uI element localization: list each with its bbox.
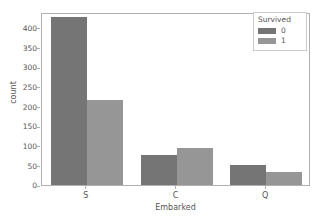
legend-swatch xyxy=(258,28,276,34)
legend-title: Survived xyxy=(258,16,302,24)
bar xyxy=(141,155,177,185)
y-axis-tick-mark xyxy=(37,107,40,108)
y-axis-tick-mark xyxy=(37,127,40,128)
x-axis-tick-mark xyxy=(175,186,176,189)
legend-swatch xyxy=(258,38,276,44)
bar xyxy=(177,148,213,185)
x-axis-tick-label: S xyxy=(83,192,88,200)
y-axis-tick-mark xyxy=(37,48,40,49)
legend-entries: 01 xyxy=(258,27,302,44)
y-axis-tick-mark xyxy=(37,28,40,29)
y-axis-tick-mark xyxy=(37,166,40,167)
x-axis-tick-mark xyxy=(265,186,266,189)
legend-item-label: 1 xyxy=(281,37,286,45)
x-axis-tick-mark xyxy=(85,186,86,189)
bar xyxy=(266,172,302,185)
bar xyxy=(51,17,87,185)
y-axis-tick-mark xyxy=(37,186,40,187)
y-axis-tick-mark xyxy=(37,146,40,147)
bar xyxy=(230,165,266,185)
legend: Survived 01 xyxy=(253,12,307,51)
y-axis-tick-mark xyxy=(37,87,40,88)
legend-item: 1 xyxy=(258,37,302,45)
x-axis-label: Embarked xyxy=(41,203,310,212)
legend-item-label: 0 xyxy=(281,27,286,35)
legend-item: 0 xyxy=(258,27,302,35)
x-axis-tick-label: Q xyxy=(262,192,268,200)
chart-figure: 050100150200250300350400 count SCQ Embar… xyxy=(0,0,324,222)
x-axis-tick-label: C xyxy=(173,192,179,200)
y-axis-label: count xyxy=(9,63,18,123)
bar xyxy=(87,100,123,185)
y-axis-tick-mark xyxy=(37,68,40,69)
y-axis: 050100150200250300350400 xyxy=(0,0,41,222)
